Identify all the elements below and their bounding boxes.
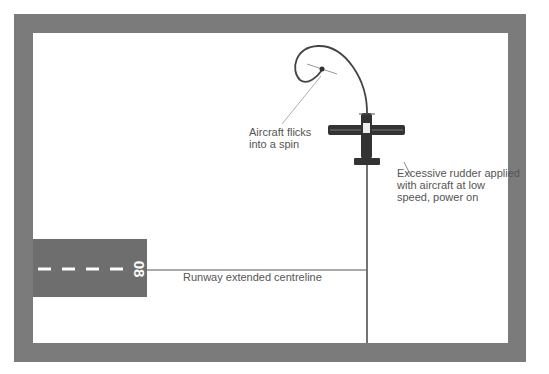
runway: 08 <box>33 239 148 297</box>
spinning-aircraft-icon <box>307 64 337 74</box>
runway-designator: 08 <box>131 261 148 278</box>
aircraft-icon <box>328 113 405 165</box>
spin-path <box>295 46 367 115</box>
spin-label: Aircraft flicks into a spin <box>249 126 311 150</box>
centreline-label: Runway extended centreline <box>183 271 322 283</box>
rudder-label: Excessive rudder applied with aircraft a… <box>397 167 520 203</box>
